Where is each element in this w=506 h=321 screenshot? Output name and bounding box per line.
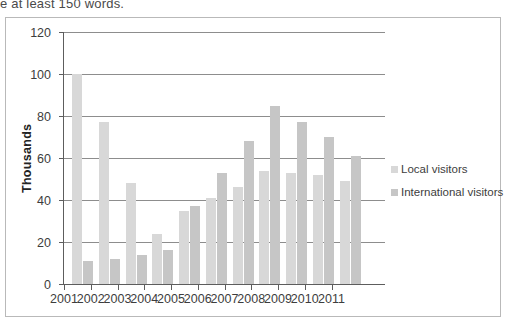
y-tick-label: 20 xyxy=(37,236,51,250)
chart-figure-frame: Thousands 020406080100120 20012002200320… xyxy=(5,17,501,317)
x-tick-mark xyxy=(251,285,252,290)
y-tick-mark: 120 xyxy=(59,32,64,33)
gridline xyxy=(64,32,385,33)
legend-swatch-icon xyxy=(391,166,398,173)
y-tick-mark: 80 xyxy=(59,116,64,117)
legend-label: International visitors xyxy=(401,186,503,198)
bar-local-visitors xyxy=(340,181,350,284)
x-tick-label: 2008 xyxy=(237,292,265,306)
x-tick-mark xyxy=(225,285,226,290)
caption-text-fragment: e at least 150 words. xyxy=(0,0,124,11)
x-tick-label: 2007 xyxy=(211,292,239,306)
gridline xyxy=(64,74,385,75)
bar-international-visitors xyxy=(351,156,361,284)
bar-international-visitors xyxy=(137,255,147,284)
bar-local-visitors xyxy=(233,187,243,284)
x-tick-label: 2002 xyxy=(77,292,105,306)
x-tick-mark xyxy=(198,285,199,290)
legend-label: Local visitors xyxy=(401,163,467,175)
x-tick-mark xyxy=(118,285,119,290)
bar-international-visitors xyxy=(217,173,227,284)
legend-item[interactable]: Local visitors xyxy=(391,163,499,175)
x-tick-mark xyxy=(171,285,172,290)
x-axis: 2001200220032004200520062007200820092010… xyxy=(63,285,385,315)
bar-local-visitors xyxy=(126,183,136,284)
bar-local-visitors xyxy=(99,122,109,284)
y-tick-label: 100 xyxy=(30,68,51,82)
y-tick-mark: 40 xyxy=(59,200,64,201)
y-tick-label: 80 xyxy=(37,110,51,124)
x-tick-label: 2004 xyxy=(130,292,158,306)
x-tick-label: 2003 xyxy=(104,292,132,306)
bar-international-visitors xyxy=(163,250,173,284)
bar-international-visitors xyxy=(244,141,254,284)
legend-item[interactable]: International visitors xyxy=(391,186,499,198)
y-tick-mark: 60 xyxy=(59,158,64,159)
bar-local-visitors xyxy=(206,198,216,284)
bar-local-visitors xyxy=(152,234,162,284)
x-tick-label: 2009 xyxy=(264,292,292,306)
plot-area: 020406080100120 xyxy=(63,32,385,285)
x-tick-label: 2001 xyxy=(50,292,78,306)
x-tick-label: 2010 xyxy=(291,292,319,306)
x-tick-mark xyxy=(278,285,279,290)
bar-international-visitors xyxy=(297,122,307,284)
gridline xyxy=(64,116,385,117)
bar-international-visitors xyxy=(190,206,200,284)
bar-international-visitors xyxy=(110,259,120,284)
bar-international-visitors xyxy=(324,137,334,284)
x-tick-label: 2011 xyxy=(318,292,345,306)
y-tick-label: 40 xyxy=(37,194,51,208)
x-tick-label: 2006 xyxy=(184,292,212,306)
x-tick-mark xyxy=(64,285,65,290)
bar-local-visitors xyxy=(72,74,82,284)
x-tick-mark xyxy=(332,285,333,290)
bar-international-visitors xyxy=(83,261,93,284)
bar-local-visitors xyxy=(179,211,189,285)
y-tick-label: 0 xyxy=(44,278,51,292)
bar-local-visitors xyxy=(286,173,296,284)
y-tick-mark: 20 xyxy=(59,242,64,243)
x-tick-label: 2005 xyxy=(157,292,185,306)
gridline xyxy=(64,158,385,159)
chart-legend: Local visitorsInternational visitors xyxy=(391,163,499,209)
y-tick-mark: 100 xyxy=(59,74,64,75)
y-tick-label: 120 xyxy=(30,26,51,40)
legend-swatch-icon xyxy=(391,189,398,196)
x-tick-mark xyxy=(91,285,92,290)
x-tick-mark xyxy=(144,285,145,290)
y-tick-label: 60 xyxy=(37,152,51,166)
bar-local-visitors xyxy=(259,171,269,284)
bar-local-visitors xyxy=(313,175,323,284)
bar-international-visitors xyxy=(270,106,280,285)
x-tick-mark xyxy=(305,285,306,290)
